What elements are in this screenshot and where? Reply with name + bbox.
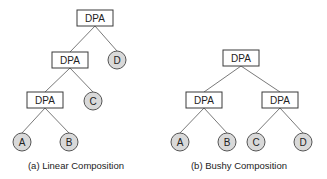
dpa-operator-node: DPA bbox=[262, 92, 298, 108]
node-label: A bbox=[19, 137, 26, 148]
edge-b-dpa3-b-d bbox=[280, 108, 303, 133]
edge-l-dpa2-l-c bbox=[70, 68, 93, 92]
caption-bushy: (b) Bushy Composition bbox=[191, 160, 287, 171]
source-node-c: C bbox=[247, 133, 265, 151]
source-node-d: D bbox=[108, 51, 126, 69]
source-node-a: A bbox=[13, 133, 31, 151]
edge-b-dpa1-b-dpa3 bbox=[241, 66, 280, 92]
composition-diagram: DPADPADDPACABDPADPADPAABCD (a) Linear Co… bbox=[0, 0, 327, 179]
edges-layer bbox=[22, 26, 303, 133]
nodes-layer: DPADPADDPACABDPADPADPAABCD bbox=[13, 10, 312, 151]
node-label: DPA bbox=[60, 55, 80, 66]
node-label: DPA bbox=[194, 95, 214, 106]
node-label: C bbox=[89, 96, 96, 107]
edge-b-dpa3-b-c bbox=[256, 108, 280, 133]
dpa-operator-node: DPA bbox=[223, 50, 259, 66]
node-label: DPA bbox=[270, 95, 290, 106]
edge-b-dpa2-b-b bbox=[204, 108, 227, 133]
source-node-d: D bbox=[294, 133, 312, 151]
node-label: D bbox=[113, 55, 120, 66]
diagram-svg: DPADPADDPACABDPADPADPAABCD (a) Linear Co… bbox=[0, 0, 327, 179]
source-node-a: A bbox=[171, 133, 189, 151]
edge-l-dpa3-l-b bbox=[45, 108, 69, 133]
edge-l-dpa1-l-d bbox=[95, 26, 117, 51]
node-label: DPA bbox=[35, 95, 55, 106]
node-label: DPA bbox=[231, 53, 251, 64]
source-node-b: B bbox=[218, 133, 236, 151]
node-label: DPA bbox=[85, 13, 105, 24]
node-label: A bbox=[177, 137, 184, 148]
edge-l-dpa3-l-a bbox=[22, 108, 45, 133]
node-label: C bbox=[252, 137, 259, 148]
edge-l-dpa2-l-dpa3 bbox=[45, 68, 70, 92]
node-label: B bbox=[224, 137, 231, 148]
node-label: B bbox=[66, 137, 73, 148]
edge-b-dpa2-b-a bbox=[180, 108, 204, 133]
caption-linear: (a) Linear Composition bbox=[28, 160, 124, 171]
source-node-c: C bbox=[84, 92, 102, 110]
dpa-operator-node: DPA bbox=[27, 92, 63, 108]
dpa-operator-node: DPA bbox=[186, 92, 222, 108]
edge-b-dpa1-b-dpa2 bbox=[204, 66, 241, 92]
node-label: D bbox=[299, 137, 306, 148]
dpa-operator-node: DPA bbox=[77, 10, 113, 26]
edge-l-dpa1-l-dpa2 bbox=[70, 26, 95, 52]
dpa-operator-node: DPA bbox=[52, 52, 88, 68]
source-node-b: B bbox=[60, 133, 78, 151]
